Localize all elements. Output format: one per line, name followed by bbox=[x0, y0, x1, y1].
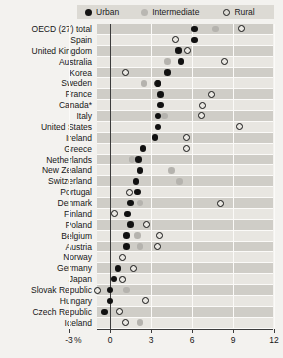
data-point-rural bbox=[122, 319, 129, 326]
category-label: Spain bbox=[0, 35, 96, 46]
data-point-rural bbox=[156, 232, 163, 239]
x-tick-label: 9 bbox=[221, 335, 245, 345]
data-point-inter bbox=[212, 26, 219, 33]
data-point-urban bbox=[101, 309, 108, 316]
data-point-urban bbox=[157, 91, 164, 98]
category-label: Netherlands bbox=[0, 155, 96, 166]
data-point-rural bbox=[94, 287, 101, 294]
x-tick bbox=[233, 329, 234, 333]
category-label: Portugal bbox=[0, 187, 96, 198]
gridline bbox=[192, 24, 193, 329]
category-label: Czech Republic bbox=[0, 307, 96, 318]
legend-item-intermediate: Intermediate bbox=[141, 7, 199, 17]
data-point-inter bbox=[123, 287, 130, 294]
data-point-inter bbox=[168, 167, 175, 174]
category-label: Germany bbox=[0, 263, 96, 274]
data-point-rural bbox=[208, 91, 215, 98]
legend-item-urban: Urban bbox=[85, 7, 119, 17]
category-label: Ireland bbox=[0, 133, 96, 144]
data-point-urban bbox=[127, 200, 134, 207]
plot-area bbox=[97, 24, 273, 329]
data-point-rural bbox=[119, 276, 126, 283]
category-label: France bbox=[0, 89, 96, 100]
category-label: Iceland bbox=[0, 318, 96, 329]
x-tick bbox=[69, 329, 70, 333]
category-label: Finland bbox=[0, 209, 96, 220]
category-label: United States bbox=[0, 122, 96, 133]
x-tick bbox=[110, 329, 111, 333]
data-point-urban bbox=[140, 145, 147, 152]
data-point-rural bbox=[111, 210, 118, 217]
category-label: Switzerland bbox=[0, 176, 96, 187]
data-point-rural bbox=[217, 200, 224, 207]
category-label: Denmark bbox=[0, 198, 96, 209]
chart-root: Urban Intermediate Rural OECD (27) total… bbox=[0, 0, 283, 358]
category-label: Belgium bbox=[0, 231, 96, 242]
data-point-urban bbox=[137, 167, 144, 174]
category-label: Greece bbox=[0, 144, 96, 155]
gridline bbox=[69, 24, 70, 329]
x-tick bbox=[274, 329, 275, 333]
category-label: Italy bbox=[0, 111, 96, 122]
category-label: Slovak Republic bbox=[0, 285, 96, 296]
gridline bbox=[233, 24, 234, 329]
x-tick bbox=[192, 329, 193, 333]
data-point-urban bbox=[133, 178, 140, 185]
gridline bbox=[151, 24, 152, 329]
data-point-rural bbox=[130, 265, 137, 272]
data-point-urban bbox=[127, 221, 134, 228]
data-point-inter bbox=[129, 156, 136, 163]
category-label: Korea bbox=[0, 68, 96, 79]
filled-circle-black-icon bbox=[85, 9, 92, 16]
x-tick-label: 0 bbox=[98, 335, 122, 345]
data-point-urban bbox=[134, 189, 141, 196]
x-axis-line bbox=[97, 329, 273, 330]
data-point-urban bbox=[115, 265, 122, 272]
chart-legend: Urban Intermediate Rural bbox=[77, 5, 274, 19]
legend-label-rural: Rural bbox=[234, 7, 254, 17]
data-point-inter bbox=[134, 232, 141, 239]
category-label: Sweden bbox=[0, 78, 96, 89]
data-point-urban bbox=[123, 243, 130, 250]
x-tick bbox=[151, 329, 152, 333]
category-label: Japan bbox=[0, 274, 96, 285]
category-label: Canada* bbox=[0, 100, 96, 111]
data-point-inter bbox=[137, 243, 144, 250]
category-label: Hungary bbox=[0, 296, 96, 307]
data-point-urban bbox=[164, 69, 171, 76]
category-label: Norway bbox=[0, 252, 96, 263]
data-point-inter bbox=[176, 178, 183, 185]
gridline bbox=[274, 24, 275, 329]
category-label: Austria bbox=[0, 242, 96, 253]
zero-line bbox=[110, 24, 111, 329]
category-label: OECD (27) total bbox=[0, 24, 96, 35]
category-label: United Kingdom bbox=[0, 46, 96, 57]
data-point-urban bbox=[135, 156, 142, 163]
legend-label-urban: Urban bbox=[96, 7, 119, 17]
data-point-rural bbox=[122, 69, 129, 76]
data-point-rural bbox=[126, 189, 133, 196]
category-label: Australia bbox=[0, 57, 96, 68]
x-tick-label: 6 bbox=[180, 335, 204, 345]
data-point-urban bbox=[123, 232, 130, 239]
data-point-rural bbox=[119, 254, 126, 261]
legend-item-rural: Rural bbox=[223, 7, 254, 17]
x-tick-label: 3 bbox=[139, 335, 163, 345]
open-circle-icon bbox=[223, 9, 230, 16]
data-point-urban bbox=[155, 80, 162, 87]
x-axis-unit-label: % bbox=[74, 335, 82, 345]
data-point-inter bbox=[141, 80, 148, 87]
data-point-urban bbox=[175, 47, 182, 54]
category-label: Poland bbox=[0, 220, 96, 231]
x-tick-label: 12 bbox=[262, 335, 283, 345]
category-axis-labels: OECD (27) totalSpainUnited KingdomAustra… bbox=[0, 24, 96, 329]
data-point-inter bbox=[164, 58, 171, 65]
data-point-urban bbox=[191, 37, 198, 44]
legend-label-intermediate: Intermediate bbox=[152, 7, 199, 17]
category-label: New Zealand bbox=[0, 165, 96, 176]
filled-circle-gray-icon bbox=[141, 9, 148, 16]
